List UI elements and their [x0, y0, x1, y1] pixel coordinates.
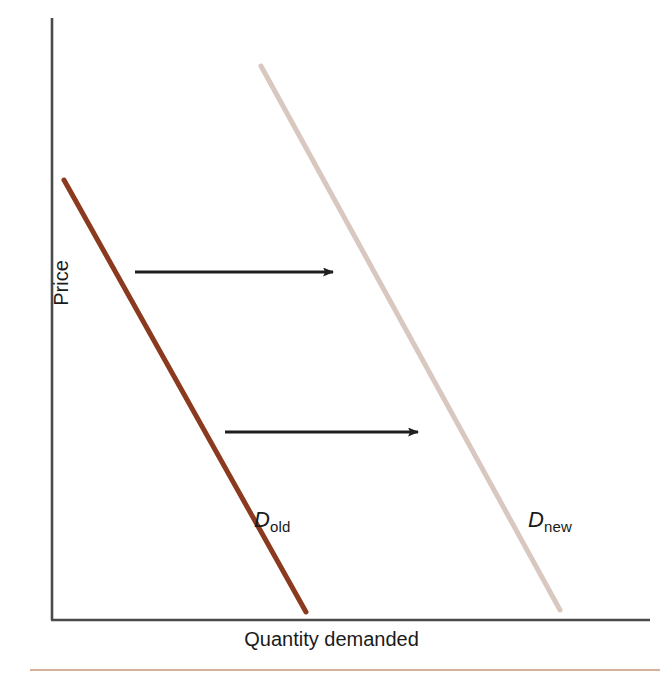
curve-label-d-old: Dold	[254, 508, 291, 539]
curve-label-d-new-subscript: new	[544, 518, 572, 535]
y-axis-title: Price	[48, 228, 74, 338]
curve-label-d-new-base: D	[528, 507, 544, 532]
demand-shift-figure: Price Quantity demanded Dold Dnew	[0, 0, 663, 683]
x-axis-title: Quantity demanded	[0, 626, 663, 652]
curve-label-d-old-base: D	[254, 507, 270, 532]
chart-canvas	[0, 0, 663, 683]
demand-curve-old	[64, 180, 306, 612]
demand-curve-new	[261, 66, 560, 610]
curve-label-d-old-subscript: old	[270, 518, 291, 535]
curve-label-d-new: Dnew	[528, 508, 572, 539]
